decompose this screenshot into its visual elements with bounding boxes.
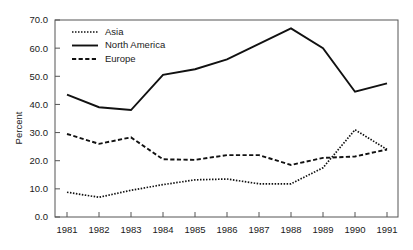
x-tick-label: 1986 <box>216 224 237 235</box>
y-tick-label: 60.0 <box>30 43 49 54</box>
y-tick-label: 40.0 <box>30 99 49 110</box>
legend-label-europe: Europe <box>105 53 136 64</box>
y-axis-title: Percent <box>13 111 24 144</box>
x-tick-label: 1989 <box>312 224 333 235</box>
chart-legend: AsiaNorth AmericaEurope <box>72 26 166 64</box>
legend-label-asia: Asia <box>105 26 124 37</box>
y-tick-label: 20.0 <box>30 155 49 166</box>
x-tick-label: 1981 <box>56 224 77 235</box>
x-tick-label: 1987 <box>248 224 269 235</box>
y-tick-label: 10.0 <box>30 183 49 194</box>
legend-label-north-america: North America <box>105 39 166 50</box>
x-axis-ticks: 1981198219831984198519861987198819891990… <box>56 212 397 235</box>
x-tick-label: 1984 <box>152 224 173 235</box>
x-tick-label: 1991 <box>376 224 397 235</box>
x-tick-label: 1985 <box>184 224 205 235</box>
x-tick-label: 1983 <box>120 224 141 235</box>
x-tick-label: 1988 <box>280 224 301 235</box>
x-tick-label: 1990 <box>344 224 365 235</box>
line-chart: 0.010.020.030.040.050.060.070.0 19811982… <box>0 0 413 250</box>
y-tick-label: 30.0 <box>30 127 49 138</box>
y-tick-label: 50.0 <box>30 71 49 82</box>
x-tick-label: 1982 <box>88 224 109 235</box>
y-tick-label: 70.0 <box>30 14 49 25</box>
y-tick-label: 0.0 <box>35 211 48 222</box>
chart-canvas: 0.010.020.030.040.050.060.070.0 19811982… <box>0 0 413 250</box>
